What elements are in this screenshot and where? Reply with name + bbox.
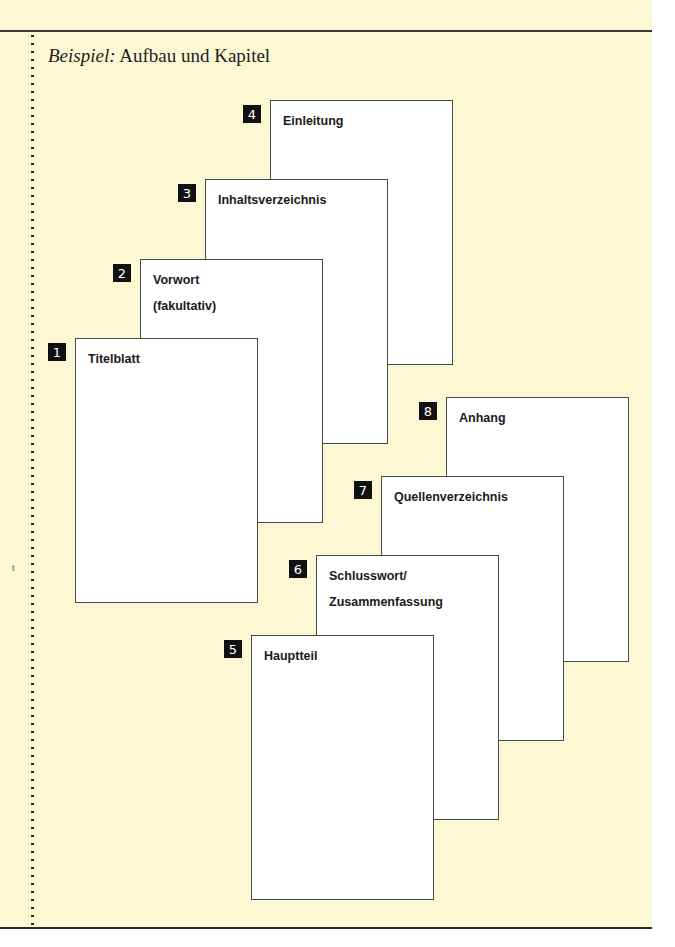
title-prefix: Beispiel: xyxy=(48,45,116,66)
page-label: Hauptteil xyxy=(264,643,317,669)
page-number-badge: 3 xyxy=(178,184,196,202)
page-label: Inhaltsverzeichnis xyxy=(218,187,326,213)
page-number-badge: 1 xyxy=(48,343,66,361)
diagram-title: Beispiel: Aufbau und Kapitel xyxy=(48,45,270,67)
bottom-rule xyxy=(0,927,652,929)
page-number-badge: 8 xyxy=(419,402,437,420)
page-label: Quellenverzeichnis xyxy=(394,484,508,510)
page-label: Schlusswort/ Zusammenfassung xyxy=(329,563,443,615)
page-label: Anhang xyxy=(459,405,506,431)
cropped-text-fragment: t xyxy=(12,563,15,572)
page-label: Einleitung xyxy=(283,108,343,134)
page-number-badge: 6 xyxy=(289,560,307,578)
page-number-badge: 7 xyxy=(354,481,372,499)
example-panel: t Beispiel: Aufbau und Kapitel Einleitun… xyxy=(0,0,652,929)
page-number-badge: 5 xyxy=(224,640,242,658)
page-number-badge: 2 xyxy=(113,264,131,282)
page-titelblatt: Titelblatt xyxy=(75,338,258,603)
page-label: Titelblatt xyxy=(88,346,140,372)
dotted-margin-line xyxy=(31,32,34,928)
page-hauptteil: Hauptteil xyxy=(251,635,434,900)
top-rule xyxy=(0,30,652,32)
title-text: Aufbau und Kapitel xyxy=(116,45,271,66)
page-number-badge: 4 xyxy=(243,105,261,123)
page-label: Vorwort (fakultativ) xyxy=(153,267,216,319)
